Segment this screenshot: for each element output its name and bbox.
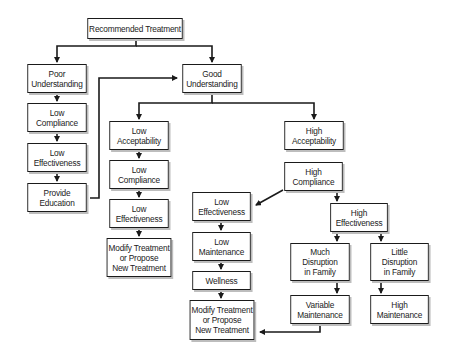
edge-root-to-good [136,46,212,62]
node-poor-understanding: Poor Understanding [27,64,86,93]
node-label: Low Compliance [36,108,78,128]
edge-good-to-highacc [212,103,314,119]
node-label: High Compliance [293,167,335,187]
node-modify-treatment-2: Modify Treatment or Propose New Treatmen… [190,300,255,340]
node-low-maintenance: Low Maintenance [192,232,251,261]
node-label: Low Effectiveness [34,148,81,168]
node-recommended-treatment: Recommended Treatment [87,18,182,39]
node-label: High Acceptability [292,126,336,146]
edge-variable-to-modify2 [260,324,320,332]
node-much-disruption: Much Disruption in Family [290,243,349,281]
node-label: Modify Treatment or Propose New Treatmen… [108,243,169,273]
node-mid-low-effectiveness: Low Effectiveness [109,199,168,228]
flowchart-canvas: Recommended Treatment Poor Understanding… [0,0,459,354]
node-label: Good Understanding [186,69,237,89]
node-provide-education: Provide Education [27,183,86,212]
node-high-effectiveness: High Effectiveness [330,203,388,232]
node-label: Wellness [206,276,238,286]
node-label: Low Effectiveness [198,197,245,217]
edge-root-to-poor [57,39,136,62]
node-wellness: Wellness [192,271,251,290]
node-left-low-compliance: Low Compliance [27,103,86,132]
node-high-compliance: High Compliance [284,162,343,191]
node-label: Low Acceptability [117,126,161,146]
node-label: Low Effectiveness [116,204,163,224]
node-label: Low Maintenance [199,237,244,257]
node-little-disruption: Little Disruption in Family [370,243,429,281]
edge-highcomp-to-loweff [256,190,283,205]
node-label: Provide Education [39,188,74,208]
node-label: Much Disruption in Family [302,247,337,277]
node-label: High Maintenance [377,300,422,320]
node-good-understanding: Good Understanding [182,64,241,93]
node-label: Poor Understanding [31,69,82,89]
node-low-acceptability: Low Acceptability [109,121,168,150]
node-label: Variable Maintenance [297,300,342,320]
node-label: Modify Treatment or Propose New Treatmen… [191,305,252,335]
node-variable-maintenance: Variable Maintenance [290,295,349,324]
node-right-low-effectiveness: Low Effectiveness [192,192,251,221]
node-modify-treatment-1: Modify Treatment or Propose New Treatmen… [107,238,172,277]
node-label: Low Compliance [118,165,160,185]
node-high-acceptability: High Acceptability [284,121,343,150]
node-label: Recommended Treatment [89,24,181,34]
node-left-low-effectiveness: Low Effectiveness [27,143,86,172]
node-label: Little Disruption in Family [382,247,417,277]
node-mid-low-compliance: Low Compliance [109,160,168,189]
node-label: High Effectiveness [336,208,383,228]
node-high-maintenance: High Maintenance [370,295,429,324]
edge-good-to-lowacc [139,93,212,119]
